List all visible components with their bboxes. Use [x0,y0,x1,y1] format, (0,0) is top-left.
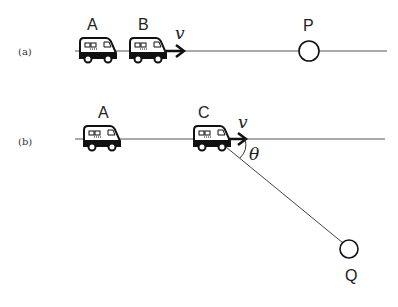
velocity-label-a: v [175,23,185,43]
diagram: (a) A B v P (b) A C v θ Q [0,0,398,307]
car-c-icon [194,126,230,151]
car-a-label: A [87,16,98,33]
point-q-icon [340,240,358,258]
car-a-b-label: A [98,104,109,121]
panel-a: (a) A B v P [18,16,387,63]
line-to-q [226,147,343,243]
panel-b-label: (b) [18,136,32,147]
panel-b: (b) A C v θ Q [18,104,385,284]
car-a-b-icon [84,126,120,151]
angle-theta-label: θ [249,144,259,164]
car-c-label: C [198,104,210,121]
velocity-label-b: v [238,112,248,132]
point-p-label: P [303,17,314,34]
velocity-arrow-icon [166,45,184,57]
car-b-icon [130,38,166,63]
car-b-label: B [138,16,149,33]
car-a-icon [80,38,116,63]
panel-a-label: (a) [18,46,32,57]
point-p-icon [299,41,319,61]
point-q-label: Q [345,267,357,284]
